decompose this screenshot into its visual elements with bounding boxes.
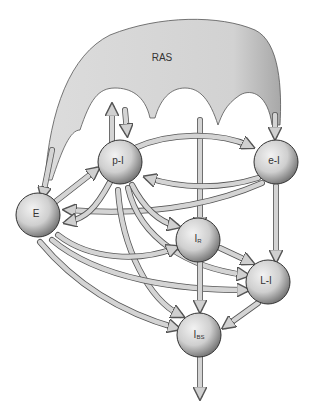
ras-blob [45, 19, 281, 180]
label-ibs-sub: BS [196, 334, 204, 340]
edges [40, 108, 276, 395]
label-ir: IR [194, 233, 201, 244]
label-ras: RAS [152, 52, 173, 63]
label-e: E [33, 208, 40, 219]
respiratory-network-diagram: RAS p-I e-I E IR L-I IBS [0, 0, 315, 415]
label-ir-sub: R [197, 238, 201, 244]
label-l-i: L-I [260, 275, 272, 286]
label-e-i: e-I [268, 155, 280, 166]
label-ibs: IBS [194, 329, 205, 340]
label-p-i: p-I [112, 155, 124, 166]
